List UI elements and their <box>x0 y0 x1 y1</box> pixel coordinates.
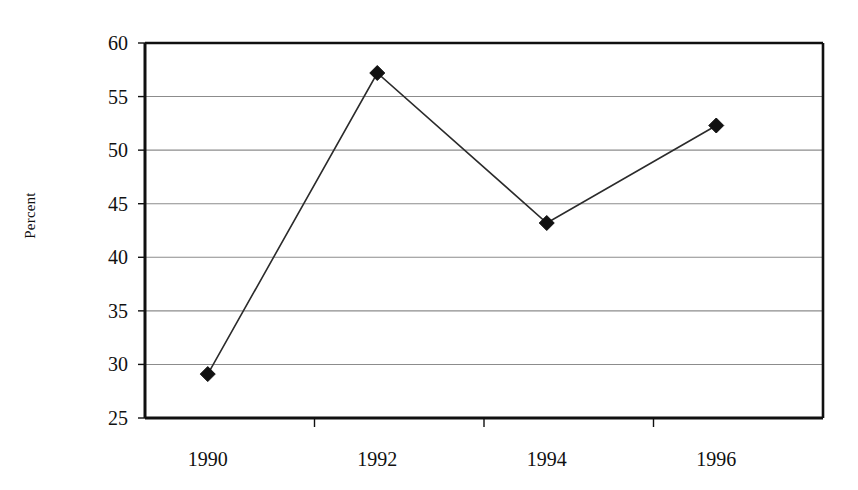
axis-ticks <box>138 43 654 427</box>
data-point-1996 <box>709 118 724 133</box>
data-point-1990 <box>200 367 215 382</box>
gridlines <box>145 97 823 365</box>
data-series-percent <box>208 73 717 374</box>
data-markers <box>200 66 724 382</box>
plot-area <box>0 0 858 490</box>
line-chart: Percent 2530354045505560 199019921994199… <box>0 0 858 490</box>
series-line-percent <box>208 73 717 374</box>
plot-frame <box>145 43 823 418</box>
